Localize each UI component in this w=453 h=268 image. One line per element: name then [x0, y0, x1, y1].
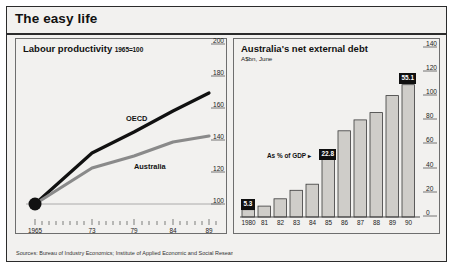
x-tick-73: 73 [82, 227, 102, 234]
arrow-right-icon: ▸ [308, 152, 311, 159]
y-tick-200: 200 [213, 37, 224, 44]
bar-90 [402, 85, 414, 217]
panel-external-debt: Australia's net external debt A$bn, June [233, 38, 440, 256]
badge-1980-gdp: 5.3 [241, 199, 255, 210]
badge-1985-gdp: 22.8 [319, 149, 336, 160]
chart-figure: The easy life Labour productivity 1965=1… [6, 6, 447, 262]
x-axis-ticks [35, 219, 216, 225]
bar-89 [386, 96, 398, 217]
gdp-annotation-text: As % of GDP [267, 152, 306, 159]
bar-y-tick-20: 20 [426, 185, 433, 192]
bar-x-tick-90: 90 [398, 219, 419, 226]
figure-title: The easy life [15, 11, 97, 26]
line-chart-svg [16, 39, 226, 233]
series-label-australia: Australia [134, 162, 166, 171]
bar-87 [354, 120, 366, 217]
gdp-annotation: As % of GDP ▸ [267, 152, 311, 160]
bar-y-tick-100: 100 [426, 88, 437, 95]
bar-83 [290, 190, 302, 217]
bar-y-tick-40: 40 [426, 161, 433, 168]
bar-y-tick-120: 120 [426, 64, 437, 71]
y-tick-120: 120 [213, 165, 224, 172]
bar-82 [274, 199, 286, 217]
bar-y-tick-60: 60 [426, 136, 433, 143]
series-australia-line [35, 136, 209, 204]
bar-81 [258, 206, 270, 217]
bar-y-tick-140: 140 [426, 40, 437, 47]
bar-84 [306, 184, 318, 217]
panel-labour-productivity: Labour productivity 1965=100 [15, 38, 227, 256]
x-tick-79: 79 [124, 227, 144, 234]
bar-85 [322, 159, 334, 217]
y-tick-180: 180 [213, 69, 224, 76]
series-label-oecd: OECD [126, 114, 147, 123]
bar-88 [370, 113, 382, 217]
bar-y-tick-0: 0 [426, 209, 430, 216]
x-tick-1965: 1965 [21, 227, 49, 234]
source-note: Sources: Bureau of Industry Economics; I… [16, 250, 239, 256]
badge-1990-gdp: 55.1 [399, 73, 416, 84]
bar-chart-plot: Australia's net external debt A$bn, June [233, 38, 440, 234]
y-tick-140: 140 [213, 133, 224, 140]
line-chart-plot: Labour productivity 1965=100 [15, 38, 227, 234]
bar-chart-svg [234, 39, 439, 233]
bar-1980 [242, 210, 254, 217]
y-tick-100: 100 [213, 197, 224, 204]
bar-y-tick-80: 80 [426, 112, 433, 119]
title-divider [7, 33, 446, 35]
y-tick-160: 160 [213, 101, 224, 108]
bar-86 [338, 131, 350, 217]
x-tick-84: 84 [163, 227, 183, 234]
origin-marker-dot [29, 198, 42, 211]
